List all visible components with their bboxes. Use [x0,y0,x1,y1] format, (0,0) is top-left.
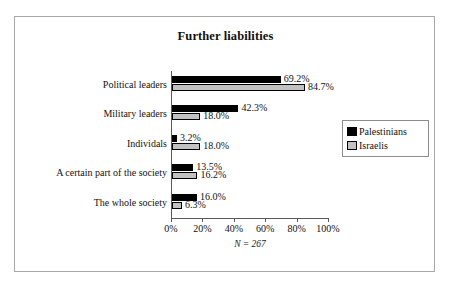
chart-title: Further liabilities [15,29,436,44]
legend-item: Israelis [347,138,424,152]
bar-value-label: 18.0% [203,140,229,152]
bar-value-label: 42.3% [241,102,267,114]
bar-value-label: 16.2% [200,169,226,181]
legend-item: Palestinians [347,124,424,138]
x-tick-mark [265,218,266,222]
category-axis-labels: Political leadersMilitary leadersIndivid… [19,71,167,218]
bar [172,135,177,142]
x-axis-ticks: 0%20%40%60%80%100% [171,218,329,238]
category-label: The whole society [21,197,167,208]
black-swatch-icon [347,127,357,136]
bar-value-label: 6.3% [185,199,206,211]
bar-group: 13.5%16.2% [171,159,328,188]
x-tick-label: 60% [256,223,274,234]
x-tick-mark [171,218,172,222]
category-label: Military leaders [21,108,167,119]
x-tick-label: 80% [287,223,305,234]
chart-figure-frame: Further liabilities Political leadersMil… [14,16,435,272]
x-tick-label: 20% [193,223,211,234]
bar-group: 3.2%18.0% [171,130,328,159]
bar-group: 16.0%6.3% [171,189,328,218]
x-tick-label: 40% [225,223,243,234]
x-tick-mark [202,218,203,222]
bar-group: 42.3%18.0% [171,100,328,129]
bar [172,202,182,209]
x-tick-label: 100% [316,223,339,234]
category-label: Individals [21,138,167,149]
bar [172,113,200,120]
bar [172,164,193,171]
bar-value-label: 18.0% [203,110,229,122]
x-tick-mark [234,218,235,222]
bar-group: 69.2%84.7% [171,71,328,100]
bar [172,76,281,83]
bar [172,84,305,91]
x-tick-label: 0% [164,223,177,234]
legend-label: Palestinians [359,126,407,137]
bar-value-label: 84.7% [308,81,334,93]
x-tick-mark [297,218,298,222]
plot-area: 69.2%84.7%42.3%18.0%3.2%18.0%13.5%16.2%1… [171,71,328,218]
gray-swatch-icon [347,141,357,150]
chart-legend: PalestiniansIsraelis [342,120,429,157]
category-label: A certain part of the society [21,167,167,178]
bar [172,143,200,150]
legend-label: Israelis [359,140,388,151]
sample-size-caption: N = 267 [171,239,329,249]
x-tick-mark [328,218,329,222]
bar [172,172,197,179]
category-label: Political leaders [21,79,167,90]
